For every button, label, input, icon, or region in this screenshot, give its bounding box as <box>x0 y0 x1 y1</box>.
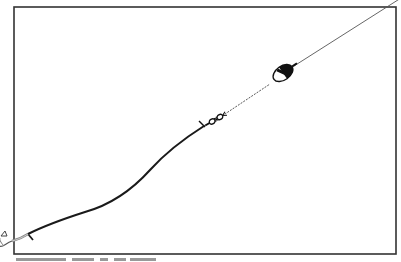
main-line-upper <box>294 0 401 66</box>
float-weight-icon <box>270 58 301 86</box>
diagram-canvas <box>0 0 401 262</box>
leader-barb <box>28 234 33 240</box>
swivel-icon <box>204 111 227 127</box>
leader-line <box>28 126 204 234</box>
cropped-caption-marks <box>16 258 156 261</box>
hook-icon <box>0 231 12 246</box>
main-line <box>222 84 270 116</box>
